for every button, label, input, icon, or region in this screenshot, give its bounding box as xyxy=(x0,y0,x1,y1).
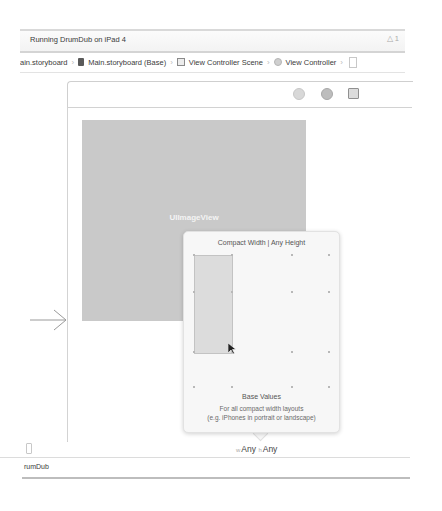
height-value: Any xyxy=(263,444,278,454)
grid-dot xyxy=(193,351,195,353)
grid-dot xyxy=(328,254,330,256)
debug-bar: rumDub xyxy=(22,460,410,479)
grid-dot xyxy=(328,351,330,353)
height-prefix: h xyxy=(258,447,261,453)
size-class-title: Compact Width | Any Height xyxy=(184,239,339,246)
base-values-title: Base Values xyxy=(184,393,339,400)
grid-dot xyxy=(291,386,293,388)
status-text: Running DrumDub on iPad 4 xyxy=(30,35,126,44)
grid-dot xyxy=(231,386,233,388)
exit-dock-icon[interactable] xyxy=(348,88,359,99)
grid-dot xyxy=(328,291,330,293)
grid-dot xyxy=(193,254,195,256)
breadcrumb-label: Main.storyboard (Base) xyxy=(88,58,166,67)
breadcrumb-label: View Controller Scene xyxy=(189,58,263,67)
grid-dot xyxy=(193,291,195,293)
debug-target-label: rumDub xyxy=(24,463,49,470)
breadcrumb: ain.storyboard › Main.storyboard (Base) … xyxy=(20,52,405,73)
entry-arrow-icon[interactable] xyxy=(28,307,68,333)
chevron-right-icon: › xyxy=(267,58,270,67)
grid-dot xyxy=(291,291,293,293)
scene-icon xyxy=(177,58,185,66)
chevron-right-icon: › xyxy=(170,58,173,67)
grid-dot xyxy=(231,254,233,256)
description-line: (e.g. iPhones in portrait or landscape) xyxy=(184,413,339,422)
activity-status-bar: Running DrumDub on iPad 4 △ 1 xyxy=(20,29,405,53)
warning-count: 1 xyxy=(395,34,399,43)
view-icon[interactable] xyxy=(349,57,357,68)
view-controller-dock-icon[interactable] xyxy=(293,88,305,100)
breadcrumb-item-scene[interactable]: View Controller Scene xyxy=(177,58,263,67)
size-class-grid[interactable] xyxy=(193,254,330,384)
grid-dot xyxy=(231,291,233,293)
size-class-button[interactable]: wAny hAny xyxy=(236,444,277,454)
grid-dot xyxy=(291,351,293,353)
warning-indicator[interactable]: △ 1 xyxy=(387,34,399,43)
description-line: For all compact width layouts xyxy=(184,404,339,413)
chevron-right-icon: › xyxy=(340,58,343,67)
first-responder-dock-icon[interactable] xyxy=(321,88,333,100)
image-view-label: UIImageView xyxy=(82,213,306,222)
grid-dot xyxy=(328,386,330,388)
breadcrumb-item-storyboard-base[interactable]: Main.storyboard (Base) xyxy=(78,58,166,67)
width-prefix: w xyxy=(236,447,240,453)
selected-size-cell[interactable] xyxy=(194,255,233,354)
width-value: Any xyxy=(241,444,256,454)
storyboard-file-icon xyxy=(78,58,84,66)
breadcrumb-label: View Controller xyxy=(286,58,337,67)
view-controller-icon xyxy=(274,58,282,66)
mouse-cursor-icon xyxy=(228,343,237,355)
breadcrumb-item-view-controller[interactable]: View Controller xyxy=(274,58,337,67)
warning-triangle-icon: △ xyxy=(387,34,393,43)
size-class-bar: wAny hAny xyxy=(0,441,410,458)
scene-left-edge xyxy=(67,107,68,441)
breadcrumb-label: ain.storyboard xyxy=(20,58,68,67)
breadcrumb-item-main-storyboard[interactable]: ain.storyboard xyxy=(20,58,68,67)
size-class-popover: Compact Width | Any Height Base Values F… xyxy=(183,231,340,433)
document-outline-toggle-icon[interactable] xyxy=(26,443,32,454)
chevron-right-icon: › xyxy=(72,58,75,67)
base-values-description: For all compact width layouts (e.g. iPho… xyxy=(184,404,339,422)
scene-dock xyxy=(67,81,412,108)
grid-dot xyxy=(193,386,195,388)
grid-dot xyxy=(291,254,293,256)
